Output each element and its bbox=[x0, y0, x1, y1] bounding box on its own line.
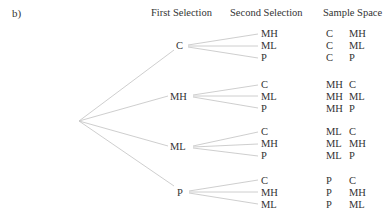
sample-outcome-second: P bbox=[349, 103, 355, 115]
header-second-selection: Second Selection bbox=[230, 7, 303, 19]
sample-outcome-second: MH bbox=[349, 187, 366, 199]
header-first-selection: First Selection bbox=[151, 7, 212, 19]
second-node: ML bbox=[261, 199, 277, 211]
sample-outcome-first: MH bbox=[326, 103, 343, 115]
first-node-mh: MH bbox=[170, 91, 187, 103]
sample-outcome-first: ML bbox=[326, 138, 342, 150]
second-node: P bbox=[261, 52, 267, 64]
second-node: MH bbox=[261, 28, 278, 40]
sample-outcome-second: P bbox=[349, 52, 355, 64]
sample-outcome-second: P bbox=[349, 150, 355, 162]
sample-outcome-second: ML bbox=[349, 199, 365, 211]
sample-outcome-first: C bbox=[326, 52, 333, 64]
second-node: ML bbox=[261, 91, 277, 103]
sample-outcome-second: ML bbox=[349, 91, 365, 103]
sample-outcome-second: C bbox=[349, 126, 356, 138]
sample-outcome-first: P bbox=[326, 199, 332, 211]
sample-outcome-first: C bbox=[326, 40, 333, 52]
second-node: MH bbox=[261, 187, 278, 199]
sample-outcome-first: ML bbox=[326, 150, 342, 162]
second-node: C bbox=[261, 79, 268, 91]
sample-outcome-second: MH bbox=[349, 28, 366, 40]
sample-outcome-first: P bbox=[326, 187, 332, 199]
sample-outcome-second: C bbox=[349, 175, 356, 187]
sample-outcome-first: ML bbox=[326, 126, 342, 138]
sample-outcome-second: MH bbox=[349, 138, 366, 150]
second-node: MH bbox=[261, 138, 278, 150]
sample-outcome-first: P bbox=[326, 175, 332, 187]
sample-outcome-second: ML bbox=[349, 40, 365, 52]
header-sample-space: Sample Space bbox=[323, 7, 382, 19]
part-label: b) bbox=[12, 7, 21, 19]
first-node-ml: ML bbox=[170, 141, 186, 153]
sample-outcome-first: MH bbox=[326, 91, 343, 103]
second-node: C bbox=[261, 175, 268, 187]
second-node: P bbox=[261, 103, 267, 115]
sample-outcome-first: MH bbox=[326, 79, 343, 91]
first-node-c: C bbox=[176, 40, 183, 52]
sample-outcome-second: C bbox=[349, 79, 356, 91]
second-node: P bbox=[261, 150, 267, 162]
second-node: C bbox=[261, 126, 268, 138]
second-node: ML bbox=[261, 40, 277, 52]
first-node-p: P bbox=[177, 187, 183, 199]
sample-outcome-first: C bbox=[326, 28, 333, 40]
